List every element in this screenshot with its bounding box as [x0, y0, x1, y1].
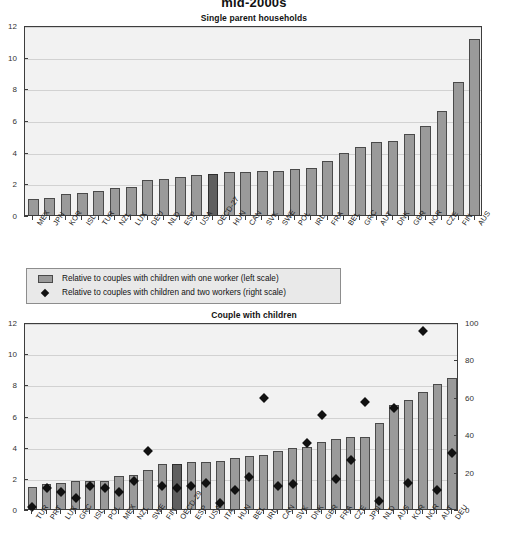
bar-SWE — [143, 470, 153, 509]
bar-DNK — [302, 447, 312, 509]
y-axis-tick-label: 0 — [0, 212, 17, 221]
x-axis-tickmark — [190, 510, 191, 514]
bar-MEX — [28, 199, 39, 215]
x-axis-tickmark — [147, 216, 148, 220]
bar-IRL — [259, 455, 269, 510]
x-axis-tickmark — [425, 216, 426, 220]
bar-KOR — [404, 400, 414, 509]
y-axis-tickmark — [24, 121, 28, 122]
x-axis-tickmark — [133, 510, 134, 514]
y2-axis-tickmark — [454, 435, 458, 436]
y2-axis-tick-label: 100 — [465, 319, 493, 328]
single-parent-households-plot — [24, 26, 482, 216]
y-axis-tick-label: 0 — [0, 506, 17, 515]
marker-IRL — [259, 393, 269, 403]
y-axis-tickmark — [24, 510, 28, 511]
x-axis-tickmark — [321, 510, 322, 514]
x-axis-tickmark — [294, 216, 295, 220]
x-axis-tickmark — [441, 216, 442, 220]
bar-AUS — [469, 39, 480, 215]
x-axis-tickmark — [392, 216, 393, 220]
x-axis-tickmark — [422, 510, 423, 514]
bar-USA — [191, 175, 202, 215]
panel2-title: Couple with children — [0, 310, 508, 320]
x-axis-tickmark — [205, 510, 206, 514]
bar-FIN — [453, 82, 464, 215]
x-axis-tickmark — [310, 216, 311, 220]
x-axis-tickmark — [32, 216, 33, 220]
x-axis-tickmark — [118, 510, 119, 514]
bar-CAN — [273, 451, 283, 509]
bar-SVK — [257, 171, 268, 215]
x-axis-tickmark — [407, 510, 408, 514]
x-axis-tickmark — [261, 216, 262, 220]
x-axis-tickmark — [292, 510, 293, 514]
bar-JPN — [360, 437, 370, 509]
bar-CZE — [437, 111, 448, 216]
bar-CAN — [240, 172, 251, 215]
x-axis-tickmark — [248, 510, 249, 514]
y-axis-tick-label: 8 — [0, 381, 17, 390]
x-axis-tickmark — [176, 510, 177, 514]
x-axis-tickmark — [458, 216, 459, 220]
y-axis-tick-label: 10 — [0, 53, 17, 62]
bar-GBR — [404, 134, 415, 215]
legend-bar-swatch — [38, 275, 53, 283]
legend-label-one-worker: Relative to couples with children with o… — [62, 274, 279, 283]
y-axis-tickmark — [24, 448, 28, 449]
y-axis-tick-label: 2 — [0, 180, 17, 189]
y-axis-tick-label: 6 — [0, 117, 17, 126]
y-axis-tick-label: 4 — [0, 443, 17, 452]
y-axis-tick-label: 10 — [0, 350, 17, 359]
y-axis-tickmark — [24, 26, 28, 27]
y-axis-tick-label: 12 — [0, 319, 17, 328]
y2-axis-tick-label: 20 — [465, 468, 493, 477]
y-axis-tickmark — [24, 417, 28, 418]
x-axis-tickmark — [436, 510, 437, 514]
figure-title: mid-2000s — [0, 0, 508, 10]
y-axis-tick-label: 6 — [0, 412, 17, 421]
y-axis-tickmark — [24, 323, 28, 324]
y-axis-tickmark — [24, 385, 28, 386]
bar-BEL — [245, 456, 255, 509]
y2-axis-tickmark — [454, 323, 458, 324]
y-axis-tick-label: 2 — [0, 474, 17, 483]
x-axis-tickmark — [65, 216, 66, 220]
bar-CZE — [346, 437, 356, 509]
y2-axis-tickmark — [454, 398, 458, 399]
bar-OECD-27 — [208, 174, 219, 215]
bar-NOR — [418, 392, 428, 509]
y-axis-tickmark — [24, 216, 28, 217]
x-axis-tickmark — [364, 510, 365, 514]
y-axis-tickmark — [24, 184, 28, 185]
x-axis-tickmark — [81, 216, 82, 220]
marker-GBR — [317, 410, 327, 420]
x-axis-tickmark — [335, 510, 336, 514]
bar-BEL — [339, 153, 350, 215]
x-axis-tickmark — [219, 510, 220, 514]
x-axis-tickmark — [179, 216, 180, 220]
x-axis-tickmark — [31, 510, 32, 514]
x-axis-tickmark — [49, 216, 50, 220]
marker-JPN — [360, 397, 370, 407]
x-axis-tickmark — [378, 510, 379, 514]
bar-TUR — [93, 191, 104, 215]
marker-NOR — [418, 326, 428, 336]
couple-with-children-plot — [24, 323, 458, 510]
x-axis-tickmark — [393, 510, 394, 514]
x-axis-tickmark — [359, 216, 360, 220]
x-axis-tickmark — [408, 216, 409, 220]
x-axis-tickmark — [277, 510, 278, 514]
x-axis-tickmark — [89, 510, 90, 514]
x-axis-tickmark — [245, 216, 246, 220]
x-axis-tickmark — [212, 216, 213, 220]
x-axis-tickmark — [104, 510, 105, 514]
x-axis-tickmark — [451, 510, 452, 514]
y-axis-tickmark — [24, 479, 28, 480]
x-axis-tickmark — [60, 510, 61, 514]
y2-axis-tick-label: 60 — [465, 393, 493, 402]
x-axis-tickmark — [343, 216, 344, 220]
chart-figure: mid-2000s Single parent households 02468… — [0, 0, 508, 554]
x-axis-tickmark — [163, 216, 164, 220]
y2-axis-tickmark — [454, 473, 458, 474]
